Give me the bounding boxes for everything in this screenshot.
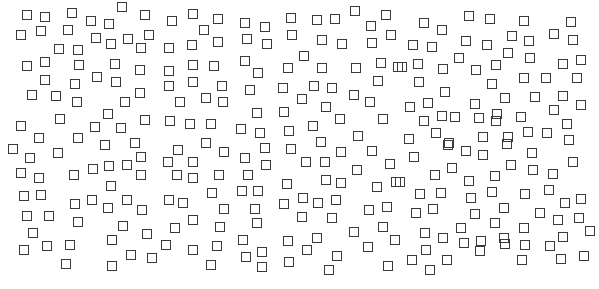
square-shape bbox=[54, 44, 64, 54]
square-shape bbox=[568, 35, 578, 45]
square-shape bbox=[137, 205, 147, 215]
square-shape bbox=[16, 121, 26, 131]
square-shape bbox=[332, 251, 342, 261]
square-shape bbox=[301, 157, 311, 167]
square-shape bbox=[175, 97, 185, 107]
square-shape bbox=[67, 8, 77, 18]
square-shape bbox=[172, 170, 182, 180]
square-shape bbox=[106, 181, 116, 191]
square-shape bbox=[327, 83, 337, 93]
square-shape bbox=[564, 135, 574, 145]
square-shape bbox=[136, 170, 146, 180]
square-shape bbox=[298, 193, 308, 203]
square-shape bbox=[470, 99, 480, 109]
square-shape bbox=[261, 160, 271, 170]
square-shape bbox=[336, 178, 346, 188]
square-shape bbox=[437, 25, 447, 35]
square-shape bbox=[19, 245, 29, 255]
square-shape bbox=[136, 43, 146, 53]
square-shape bbox=[106, 39, 116, 49]
square-shape bbox=[188, 77, 198, 87]
square-shape bbox=[238, 235, 248, 245]
square-shape bbox=[421, 245, 431, 255]
square-shape bbox=[366, 21, 376, 31]
square-shape bbox=[558, 91, 568, 101]
square-shape bbox=[408, 40, 418, 50]
square-shape bbox=[297, 94, 307, 104]
square-shape bbox=[287, 30, 297, 40]
square-shape bbox=[188, 9, 198, 19]
square-shape bbox=[242, 34, 252, 44]
square-shape bbox=[188, 60, 198, 70]
square-shape bbox=[317, 63, 327, 73]
square-shape bbox=[257, 262, 267, 272]
square-shape bbox=[524, 36, 534, 46]
square-shape bbox=[365, 97, 375, 107]
square-shape bbox=[438, 233, 448, 243]
square-shape bbox=[70, 79, 80, 89]
square-shape bbox=[386, 30, 396, 40]
square-shape bbox=[116, 123, 126, 133]
square-shape bbox=[164, 43, 174, 53]
square-shape bbox=[212, 241, 222, 251]
square-shape bbox=[91, 33, 101, 43]
square-shape bbox=[312, 15, 322, 25]
square-shape bbox=[8, 144, 18, 154]
square-shape bbox=[278, 83, 288, 93]
square-shape bbox=[73, 45, 83, 55]
square-shape bbox=[427, 42, 437, 52]
square-shape bbox=[135, 88, 145, 98]
square-shape bbox=[117, 2, 127, 12]
square-shape bbox=[456, 223, 466, 233]
square-shape bbox=[409, 152, 419, 162]
square-shape bbox=[464, 11, 474, 21]
square-shape bbox=[140, 115, 150, 125]
square-shape bbox=[423, 98, 433, 108]
square-shape bbox=[464, 176, 474, 186]
square-shape bbox=[499, 203, 509, 213]
square-shape bbox=[236, 124, 246, 134]
square-shape bbox=[51, 91, 61, 101]
square-shape bbox=[454, 53, 464, 63]
square-shape bbox=[86, 16, 96, 26]
square-shape bbox=[331, 195, 341, 205]
square-shape bbox=[213, 14, 223, 24]
square-shape bbox=[487, 187, 497, 197]
square-shape bbox=[147, 253, 157, 263]
square-shape bbox=[321, 175, 331, 185]
square-shape bbox=[574, 213, 584, 223]
square-shape bbox=[118, 221, 128, 231]
square-shape bbox=[585, 226, 595, 236]
square-shape bbox=[324, 265, 334, 275]
square-shape bbox=[549, 105, 559, 115]
square-shape bbox=[320, 157, 330, 167]
square-shape bbox=[16, 168, 26, 178]
square-shape bbox=[103, 109, 113, 119]
square-shape bbox=[530, 92, 540, 102]
square-shape bbox=[120, 97, 130, 107]
square-shape bbox=[187, 40, 197, 50]
square-shape bbox=[241, 252, 251, 262]
square-shape bbox=[253, 186, 263, 196]
square-shape bbox=[214, 170, 224, 180]
square-shape bbox=[419, 116, 429, 126]
square-shape bbox=[549, 29, 559, 39]
square-shape bbox=[207, 188, 217, 198]
square-shape bbox=[478, 132, 488, 142]
squares-canvas bbox=[0, 0, 599, 289]
square-shape bbox=[70, 199, 80, 209]
square-shape bbox=[286, 13, 296, 23]
square-shape bbox=[437, 111, 447, 121]
square-shape bbox=[188, 173, 198, 183]
square-shape bbox=[279, 107, 289, 117]
square-shape bbox=[378, 114, 388, 124]
square-shape bbox=[161, 240, 171, 250]
square-shape bbox=[367, 38, 377, 48]
square-shape bbox=[240, 56, 250, 66]
square-shape bbox=[579, 251, 589, 261]
square-shape bbox=[142, 229, 152, 239]
square-shape bbox=[219, 204, 229, 214]
square-shape bbox=[206, 119, 216, 129]
square-shape bbox=[126, 250, 136, 260]
square-shape bbox=[219, 147, 229, 157]
